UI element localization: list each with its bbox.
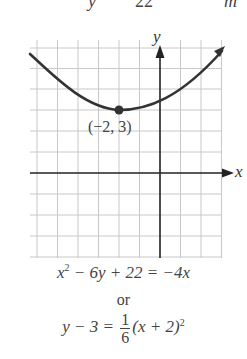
fraction-one-sixth: 16 [120,311,130,346]
equation-general-form: x2 − 6y + 22 = −4x [0,262,247,283]
fraction-numerator: 1 [120,311,130,329]
x-axis-arrow-icon [222,169,234,178]
eq2-lhs: y − 3 = [62,317,118,336]
x-axis-label: x [235,162,243,182]
vertex-point [115,106,124,115]
eq2-rhs: (x + 2) [132,317,179,336]
axes [30,52,224,258]
grid [30,40,222,258]
parabola-curve [30,51,222,110]
equation-standard-form: y − 3 = 16(x + 2)2 [0,311,247,346]
y-axis-label: y [153,27,161,47]
vertex-label: (−2, 3) [88,118,132,136]
fraction-denominator: 6 [120,329,130,346]
or-connector: or [0,291,247,309]
eq-rest: − 6y + 22 = −4x [70,263,190,282]
eq2-exponent: 2 [180,317,185,328]
eq-x: x [57,263,65,282]
